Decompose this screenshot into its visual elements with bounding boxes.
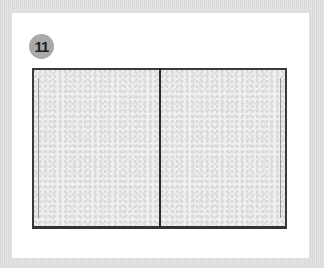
open-book-illustration <box>32 68 287 229</box>
step-card: 11 <box>12 13 309 258</box>
page-edge-line <box>38 78 39 218</box>
step-number-badge: 11 <box>29 34 54 59</box>
left-page <box>32 68 160 229</box>
right-page <box>160 68 287 229</box>
page-edge-line <box>280 78 281 218</box>
